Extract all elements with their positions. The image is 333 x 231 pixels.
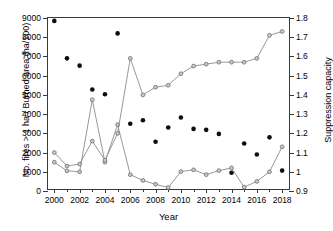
x-axis-tick-label: 2004 [95,195,114,205]
data-point [115,31,120,36]
data-point [154,85,158,89]
data-point [255,56,259,60]
data-point [153,139,158,144]
data-point [192,168,196,172]
data-point [217,60,221,64]
y-axis-left-tick-label: 3000 [22,128,41,138]
data-point [141,179,145,183]
data-point [90,139,94,143]
data-series-layer [48,18,291,191]
data-point [280,168,285,173]
y-axis-left-tick-label: 9000 [22,13,41,23]
data-point [242,185,246,189]
x-axis-tick-label: 2000 [45,195,64,205]
y-axis-right-label: Suppression capacity [323,12,333,188]
data-point [52,160,56,164]
data-point [204,173,208,177]
y-axis-right-tick-label: 1.2 [296,128,308,138]
y-axis-right-tick-label: 1.4 [296,90,308,100]
data-point [78,162,82,166]
data-point [192,64,196,68]
y-axis-left-tick-label: 8000 [22,32,41,42]
data-point [204,62,208,66]
data-point [268,33,272,37]
y-axis-left-tick-label: 6000 [22,71,41,81]
data-point [77,63,82,68]
x-axis-tick-label: 2012 [197,195,216,205]
y-axis-right-tick-label: 1.7 [296,32,308,42]
data-point [217,132,222,137]
data-point [179,72,183,76]
data-point [268,170,272,174]
data-point [255,152,260,157]
data-point [255,179,259,183]
data-point [52,151,56,155]
data-point [116,131,120,135]
x-axis-tick-label: 2014 [222,195,241,205]
data-point [103,92,108,97]
data-point [230,60,234,64]
data-point [52,19,57,24]
series-suppression-capacity [52,30,284,168]
y-axis-left-tick-label: 1000 [22,167,41,177]
data-point [78,170,82,174]
x-axis-tick-label: 2016 [247,195,266,205]
data-point [179,115,184,120]
y-axis-left-tick [43,191,48,192]
data-point [90,87,95,92]
y-axis-left-tick-label: 4000 [22,109,41,119]
y-axis-right-tick [289,191,294,192]
data-point [128,173,132,177]
data-point [166,186,170,190]
y-axis-left-tick-label: 5000 [22,90,41,100]
data-point [103,158,107,162]
data-point [65,56,70,61]
data-point [128,121,133,126]
data-point [179,170,183,174]
x-axis-tick-label: 2008 [146,195,165,205]
x-axis-tick-label: 2018 [273,195,292,205]
series-line [54,31,282,166]
data-point [154,182,158,186]
y-axis-right-tick-label: 1.3 [296,109,308,119]
data-point [166,125,171,130]
data-point [90,98,94,102]
data-point [141,93,145,97]
data-point [217,169,221,173]
data-point [128,56,132,60]
data-point [230,166,234,170]
x-axis-tick-label: 2006 [121,195,140,205]
data-point [280,145,284,149]
y-axis-right-tick-label: 1.8 [296,13,308,23]
y-axis-right-tick-label: 1.6 [296,51,308,61]
data-point [280,30,284,34]
x-axis-tick-label: 2002 [70,195,89,205]
data-point [242,141,247,146]
series-no-fires-1-ha [52,98,284,190]
data-point [166,83,170,87]
plot-area: 01000200030004000500060007000800090000.9… [47,17,290,190]
y-axis-right-tick-label: 0.9 [296,186,308,196]
y-axis-left-tick-label: 2000 [22,148,41,158]
data-point [267,135,272,140]
data-point [191,127,196,132]
x-axis-label: Year [47,211,290,222]
data-point [242,60,246,64]
data-point [65,169,69,173]
y-axis-left-tick-label: 7000 [22,51,41,61]
data-point [204,128,209,133]
series-line [54,100,282,188]
y-axis-left-tick-label: 0 [36,186,41,196]
data-point [141,118,146,123]
y-axis-right-tick-label: 1.5 [296,71,308,81]
y-axis-right-tick-label: 1.1 [296,148,308,158]
x-axis-tick-label: 2010 [171,195,190,205]
data-point [65,164,69,168]
y-axis-right-tick-label: 1 [296,167,301,177]
